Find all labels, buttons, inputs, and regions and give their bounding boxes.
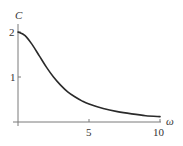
data-curve — [18, 32, 160, 117]
x-tick-label-5: 5 — [86, 126, 92, 138]
y-axis-title: C — [15, 9, 23, 21]
y-tick-label-2: 2 — [9, 26, 15, 38]
x-tick-label-10: 10 — [153, 126, 165, 138]
x-axis-title: ω — [166, 115, 174, 127]
chart: 2 1 5 10 C ω — [0, 0, 183, 146]
y-tick-label-1: 1 — [10, 71, 16, 83]
